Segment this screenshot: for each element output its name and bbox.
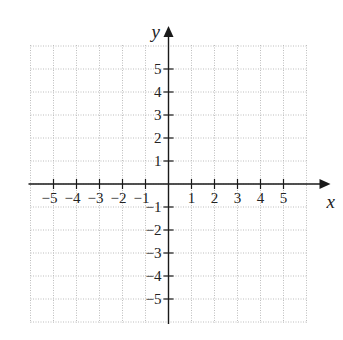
y-tick-label: 4 <box>154 84 162 100</box>
x-tick-label: −3 <box>88 190 104 206</box>
axes <box>29 26 331 324</box>
x-tick-label: 4 <box>257 190 265 206</box>
x-axis-label: x <box>326 191 336 212</box>
x-axis-arrow-icon <box>320 179 331 189</box>
x-tick-label: 1 <box>188 190 196 206</box>
x-tick-label: 3 <box>234 190 242 206</box>
x-tick-label: −2 <box>111 190 127 206</box>
y-tick-label: 1 <box>154 153 162 169</box>
y-tick-label: −2 <box>146 222 162 238</box>
coordinate-plane: −5−4−3−2−112345 54321−1−2−3−4−5 x y <box>0 0 343 340</box>
y-axis-arrow-icon <box>164 26 174 37</box>
y-tick-label: −1 <box>146 199 162 215</box>
x-ticks: −5−4−3−2−112345 <box>42 179 288 206</box>
y-tick-label: −4 <box>146 268 162 284</box>
y-tick-label: −3 <box>146 245 162 261</box>
x-tick-label: −4 <box>65 190 81 206</box>
y-axis-label: y <box>150 21 161 42</box>
y-tick-label: 3 <box>154 107 162 123</box>
y-tick-label: 2 <box>154 130 162 146</box>
x-tick-label: −5 <box>42 190 58 206</box>
x-tick-label: 5 <box>280 190 288 206</box>
y-tick-label: 5 <box>154 61 162 77</box>
y-tick-label: −5 <box>146 291 162 307</box>
x-tick-label: 2 <box>211 190 219 206</box>
